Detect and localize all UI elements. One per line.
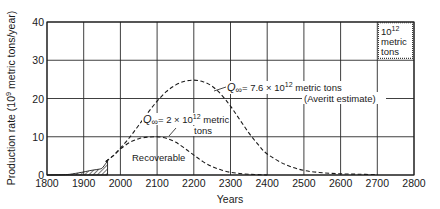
x-tick-label: 2600 xyxy=(329,177,353,189)
x-tick-label: 1900 xyxy=(72,177,96,189)
x-tick-label: 2500 xyxy=(292,177,316,189)
x-tick-label: 2200 xyxy=(182,177,206,189)
x-tick-label: 2400 xyxy=(256,177,280,189)
x-tick-label: 2100 xyxy=(145,177,169,189)
y-axis-title: Production rate (109 metric tons/year) xyxy=(4,11,17,186)
y-tick-label: 10 xyxy=(32,131,44,143)
historical-production-hatched-area xyxy=(47,161,108,175)
x-tick-label: 2800 xyxy=(402,177,426,189)
recoverable-label: Recoverable xyxy=(132,152,185,163)
y-tick-label: 40 xyxy=(32,16,44,28)
svg-text:tons: tons xyxy=(381,46,399,57)
legend-scale-box: 1012 metric tons xyxy=(378,23,413,58)
x-tick-label: 2700 xyxy=(366,177,390,189)
annotation-small-qinf: Q∞= 2 × 1012 metric tons xyxy=(142,113,229,136)
annotation-large-qinf: Q∞= 7.6 × 1012 metric tons (Averitt esti… xyxy=(214,81,386,104)
series-line-1 xyxy=(106,137,267,175)
y-tick-label: 20 xyxy=(32,93,44,105)
svg-text:(Averitt estimate): (Averitt estimate) xyxy=(304,93,376,104)
x-tick-label: 2300 xyxy=(219,177,243,189)
y-axis-ticks: 010203040 xyxy=(32,16,44,181)
x-tick-label: 2000 xyxy=(109,177,133,189)
chart-svg: 1800190020002100220023002400250026002700… xyxy=(0,0,440,209)
svg-text:tons: tons xyxy=(194,125,212,136)
coal-production-chart: 1800190020002100220023002400250026002700… xyxy=(0,0,440,209)
x-axis-ticks: 1800190020002100220023002400250026002700… xyxy=(35,177,426,189)
y-tick-label: 0 xyxy=(38,169,44,181)
hatched-area-historical xyxy=(47,161,108,175)
x-axis-title: Years xyxy=(217,193,243,205)
y-tick-label: 30 xyxy=(32,54,44,66)
